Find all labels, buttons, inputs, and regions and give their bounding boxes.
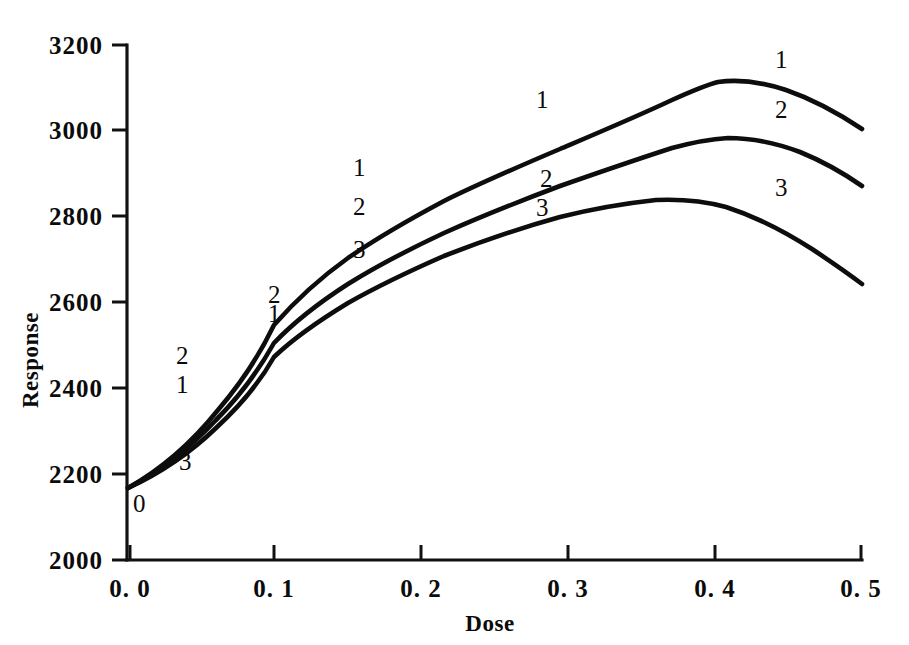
y-tick-label-2600: 2600 bbox=[49, 289, 103, 316]
dose-response-figure: 3200 3000 2800 2600 2400 2200 2000 0. 0 … bbox=[0, 0, 909, 645]
y-tick-label-3000: 3000 bbox=[49, 117, 103, 144]
curve-label-1-left: 1 bbox=[176, 371, 189, 398]
curve-series-3 bbox=[128, 200, 862, 488]
curve-series-2 bbox=[128, 138, 862, 488]
curve-label-2-mid: 2 bbox=[353, 193, 366, 220]
x-tick-label-0-3: 0. 3 bbox=[547, 575, 589, 602]
y-tick-labels: 3200 3000 2800 2600 2400 2200 2000 bbox=[49, 32, 103, 574]
x-axis-title: Dose bbox=[465, 611, 514, 636]
x-tick-label-0-4: 0. 4 bbox=[694, 575, 736, 602]
curve-label-3-right: 3 bbox=[775, 174, 788, 201]
y-tick-label-3200: 3200 bbox=[49, 32, 103, 59]
x-tick-label-0-1: 0. 1 bbox=[253, 575, 295, 602]
x-tick-marks bbox=[130, 545, 861, 560]
curve-label-1-mid: 1 bbox=[353, 154, 366, 181]
chart-canvas: 3200 3000 2800 2600 2400 2200 2000 0. 0 … bbox=[0, 0, 909, 645]
curve-label-origin-0: 0 bbox=[133, 490, 146, 517]
curve-label-3-mid: 3 bbox=[353, 236, 366, 263]
y-tick-marks bbox=[112, 45, 127, 560]
curve-inline-labels: 0 1 2 3 2 1 1 2 3 1 2 3 1 2 3 bbox=[133, 46, 788, 517]
curve-label-1-peak: 1 bbox=[536, 86, 549, 113]
x-tick-label-0-0: 0. 0 bbox=[109, 575, 151, 602]
curve-label-3-peak: 3 bbox=[536, 194, 549, 221]
axes-group bbox=[127, 45, 862, 560]
curve-label-2-peak: 2 bbox=[540, 165, 553, 192]
x-tick-labels: 0. 0 0. 1 0. 2 0. 3 0. 4 0. 5 bbox=[109, 575, 882, 602]
curve-label-3-left: 3 bbox=[179, 448, 192, 475]
curve-label-1-right: 1 bbox=[775, 46, 788, 73]
y-tick-label-2400: 2400 bbox=[49, 375, 103, 402]
y-axis-title: Response bbox=[18, 312, 43, 408]
curve-label-1-at-0-1: 1 bbox=[268, 300, 281, 327]
y-tick-label-2000: 2000 bbox=[49, 547, 103, 574]
y-tick-label-2800: 2800 bbox=[49, 203, 103, 230]
curve-label-2-left: 2 bbox=[176, 342, 189, 369]
y-tick-label-2200: 2200 bbox=[49, 461, 103, 488]
curves-group bbox=[128, 81, 862, 488]
x-tick-label-0-2: 0. 2 bbox=[400, 575, 442, 602]
curve-label-2-right: 2 bbox=[775, 96, 788, 123]
x-tick-label-0-5: 0. 5 bbox=[840, 575, 882, 602]
